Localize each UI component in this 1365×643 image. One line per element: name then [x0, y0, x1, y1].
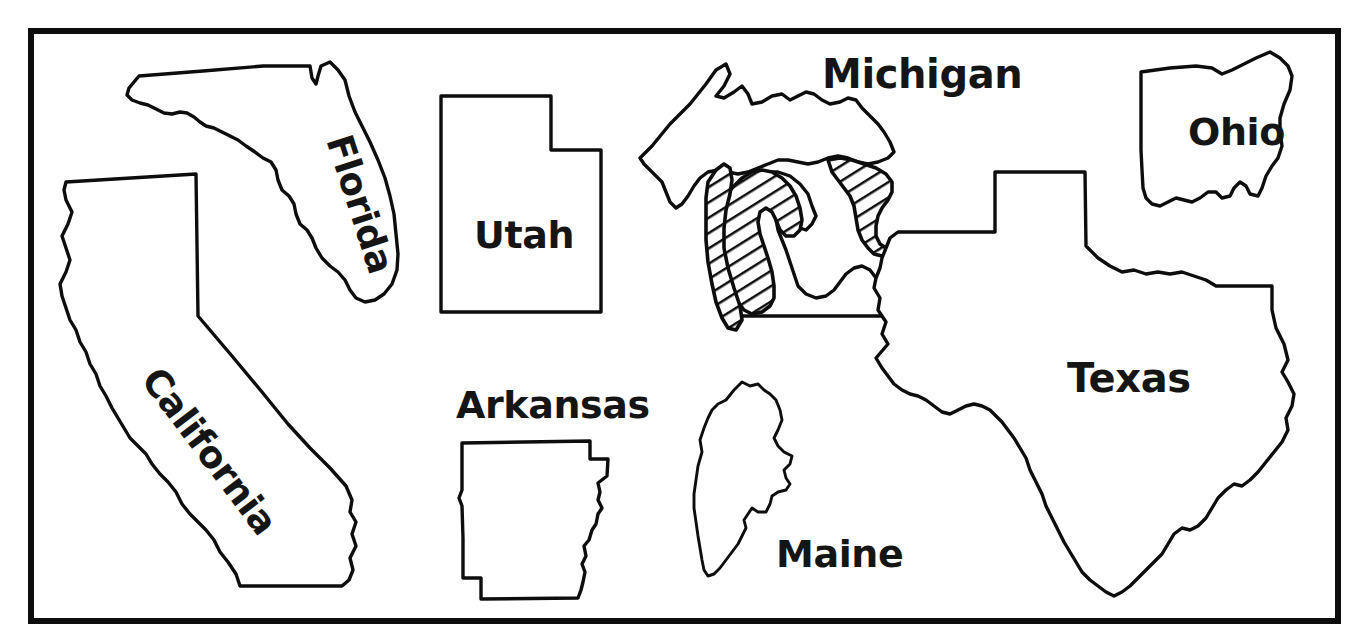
state-shape-michigan[interactable]: [640, 64, 902, 330]
state-label-ohio: Ohio: [1188, 110, 1285, 154]
state-shape-utah[interactable]: [441, 96, 601, 312]
state-outline-map: Florida California Utah Michigan Ohio Ar…: [0, 0, 1365, 643]
state-label-maine: Maine: [776, 532, 903, 576]
state-label-michigan: Michigan: [822, 51, 1022, 97]
worksheet-canvas: Florida California Utah Michigan Ohio Ar…: [0, 0, 1365, 643]
state-label-texas: Texas: [1067, 355, 1191, 401]
state-label-utah: Utah: [474, 213, 574, 257]
state-shape-arkansas[interactable]: [459, 441, 608, 599]
state-label-arkansas: Arkansas: [456, 383, 650, 427]
